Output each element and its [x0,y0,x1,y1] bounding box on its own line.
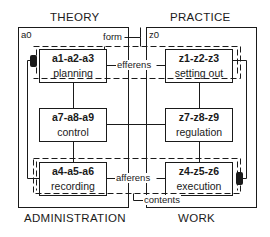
planning-box: a1-a2-a3 planning [40,53,106,78]
recording-code: a4-a5-a6 [40,166,106,177]
arrow-head-execution [236,172,243,185]
regulation-code: z7-z8-z9 [166,112,232,123]
recording-box: a4-a5-a6 recording [40,166,106,191]
frame-label-a0: a0 [21,30,32,40]
control-box: a7-a8-a9 control [40,112,106,137]
work-heading: WORK [178,213,215,225]
control-code: a7-a8-a9 [40,112,106,123]
regulation-name: regulation [166,127,232,138]
theory-heading: THEORY [50,12,100,24]
setting-out-name: setting out [166,68,232,79]
practice-heading: PRACTICE [170,12,231,24]
execution-box: z4-z5-z6 execution [166,166,232,191]
planning-name: planning [40,68,106,79]
administration-heading: ADMINISTRATION [24,213,126,225]
setting-out-box: z1-z2-z3 setting out [166,53,232,78]
efferens-label: efferens [116,60,152,70]
regulation-box: z7-z8-z9 regulation [166,112,232,137]
execution-name: execution [166,181,232,192]
contents-label: contents [143,195,181,205]
setting-out-code: z1-z2-z3 [166,53,232,64]
frame-label-z0: z0 [149,30,159,40]
arrow-head-planning [30,55,37,67]
execution-code: z4-z5-z6 [166,166,232,177]
afferens-label: afferens [115,173,151,183]
recording-name: recording [40,181,106,192]
planning-code: a1-a2-a3 [40,53,106,64]
form-label: form [102,32,123,42]
control-name: control [40,127,106,138]
